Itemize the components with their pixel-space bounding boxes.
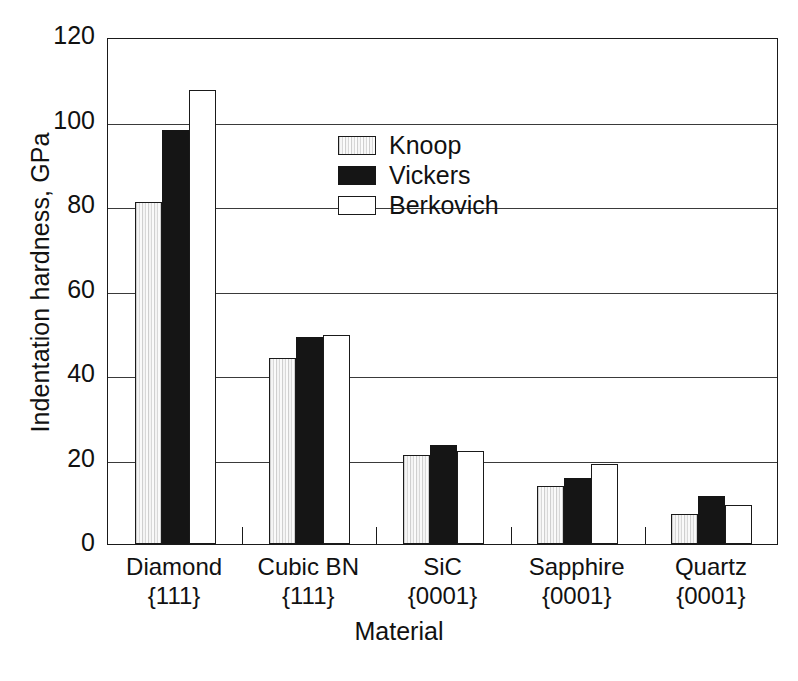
plot-area: KnoopVickersBerkovich [107, 38, 778, 545]
legend-label: Vickers [389, 161, 471, 190]
category-plane: {0001} [510, 581, 644, 610]
bar-knoop [135, 202, 162, 544]
category-name: Cubic BN [258, 553, 359, 580]
bar-groups [108, 39, 777, 544]
bar-knoop [537, 486, 564, 544]
category-plane: {0001} [644, 581, 778, 610]
legend-label: Berkovich [389, 191, 499, 220]
bar-group [376, 39, 510, 544]
bar-knoop [671, 514, 698, 544]
bar-group [645, 39, 779, 544]
x-axis-category-label: Sapphire{0001} [510, 552, 644, 611]
bar-knoop [269, 358, 296, 544]
bar-group [511, 39, 645, 544]
x-axis-category-label: Diamond{111} [107, 552, 241, 611]
x-axis-tick-labels: Diamond{111}Cubic BN{111}SiC{0001}Sapphi… [0, 552, 798, 622]
y-axis-tick-label: 60 [0, 277, 95, 302]
x-axis-category-label: Cubic BN{111} [241, 552, 375, 611]
legend-item-berkovich: Berkovich [338, 194, 499, 217]
bar-vickers [430, 445, 457, 544]
bar-chart: Indentation hardness, GPa 02040608010012… [0, 0, 798, 681]
category-name: Quartz [675, 553, 747, 580]
category-plane: {111} [107, 581, 241, 610]
legend-label: Knoop [389, 131, 461, 160]
y-axis-tick-label: 100 [0, 108, 95, 133]
bar-berkovich [725, 505, 752, 544]
bar-berkovich [189, 90, 216, 544]
bar-knoop [403, 455, 430, 544]
legend-item-vickers: Vickers [338, 164, 499, 187]
category-name: Sapphire [529, 553, 625, 580]
category-name: Diamond [126, 553, 222, 580]
legend-swatch-berkovich [338, 196, 376, 215]
y-axis-tick-label: 20 [0, 446, 95, 471]
legend: KnoopVickersBerkovich [338, 134, 499, 217]
bar-group [108, 39, 242, 544]
legend-swatch-knoop [338, 136, 376, 155]
bar-vickers [162, 130, 189, 544]
bar-group [242, 39, 376, 544]
y-axis-tick-label: 120 [0, 23, 95, 48]
x-axis-title: Material [0, 617, 798, 646]
category-plane: {0001} [375, 581, 509, 610]
bar-vickers [564, 478, 591, 544]
y-axis-tick-label: 80 [0, 192, 95, 217]
y-axis-tick-label: 40 [0, 361, 95, 386]
bar-berkovich [457, 451, 484, 544]
category-plane: {111} [241, 581, 375, 610]
bar-berkovich [591, 464, 618, 544]
legend-item-knoop: Knoop [338, 134, 499, 157]
legend-swatch-vickers [338, 166, 376, 185]
bar-berkovich [323, 335, 350, 544]
x-axis-category-label: Quartz{0001} [644, 552, 778, 611]
bar-vickers [698, 496, 725, 544]
x-axis-category-label: SiC{0001} [375, 552, 509, 611]
category-name: SiC [423, 553, 462, 580]
bar-vickers [296, 337, 323, 544]
